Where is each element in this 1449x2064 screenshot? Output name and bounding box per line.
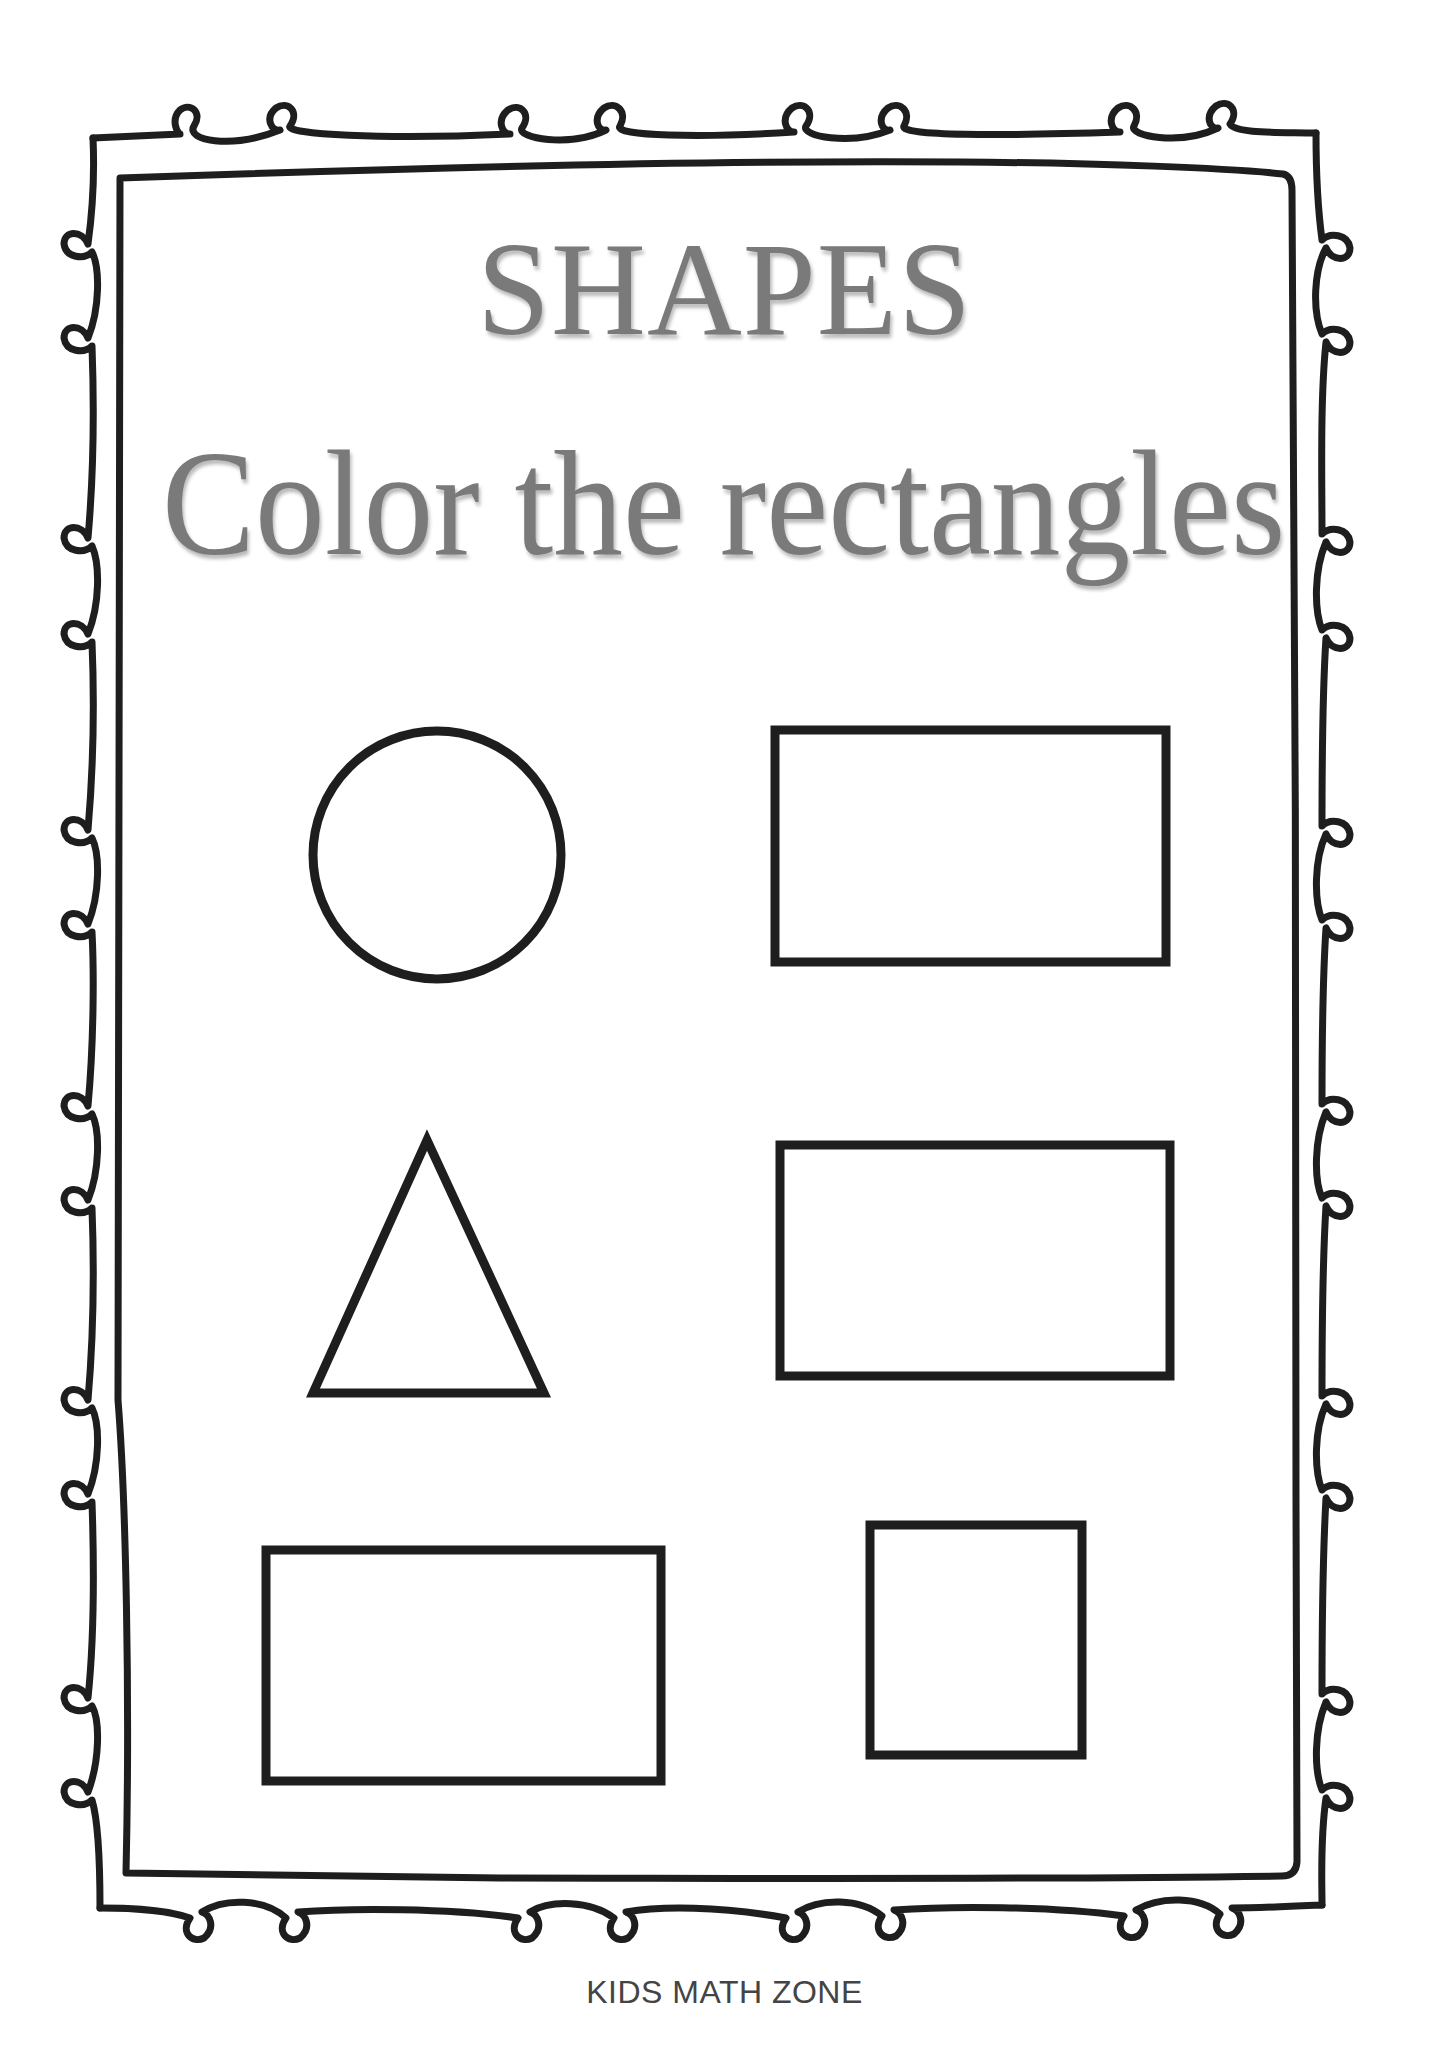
rectangle-shape-1[interactable] bbox=[775, 730, 1166, 962]
worksheet-instruction: Color the rectangles bbox=[50, 428, 1398, 578]
square-shape[interactable] bbox=[870, 1525, 1082, 1755]
outer-border-left bbox=[64, 138, 100, 1908]
triangle-shape[interactable] bbox=[313, 1140, 544, 1393]
outer-border-right bbox=[1316, 133, 1350, 1905]
circle-shape[interactable] bbox=[313, 731, 561, 979]
outer-border-top bbox=[93, 103, 1316, 141]
rectangle-shape-3[interactable] bbox=[266, 1550, 661, 1781]
footer-brand: KIDS MATH ZONE bbox=[0, 1974, 1449, 2011]
worksheet-title: SHAPES bbox=[14, 222, 1434, 356]
outer-border-bottom bbox=[100, 1900, 1322, 1940]
rectangle-shape-2[interactable] bbox=[780, 1145, 1170, 1376]
